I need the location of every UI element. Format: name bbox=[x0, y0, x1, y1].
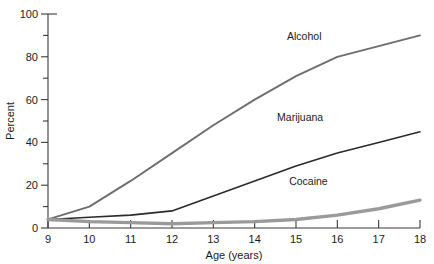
chart-background bbox=[0, 0, 434, 264]
chart-container: 020406080100 9101112131415161718 Alcohol… bbox=[0, 0, 434, 264]
x-tick-label: 10 bbox=[83, 233, 95, 245]
series-label-cocaine: Cocaine bbox=[289, 175, 328, 187]
series-label-marijuana: Marijuana bbox=[277, 111, 323, 123]
y-tick-label: 60 bbox=[26, 94, 38, 106]
series-label-alcohol: Alcohol bbox=[287, 30, 321, 42]
y-tick-label: 40 bbox=[26, 136, 38, 148]
x-tick-label: 15 bbox=[290, 233, 302, 245]
line-chart: 020406080100 9101112131415161718 Alcohol… bbox=[0, 0, 434, 264]
x-tick-label: 14 bbox=[249, 233, 261, 245]
y-tick-label: 100 bbox=[20, 8, 38, 20]
y-axis-title: Percent bbox=[4, 102, 16, 140]
x-tick-label: 16 bbox=[331, 233, 343, 245]
x-axis-title: Age (years) bbox=[206, 249, 263, 261]
x-tick-label: 9 bbox=[45, 233, 51, 245]
x-tick-label: 11 bbox=[125, 233, 136, 245]
x-tick-label: 13 bbox=[207, 233, 219, 245]
x-tick-label: 17 bbox=[373, 233, 385, 245]
x-tick-label: 18 bbox=[414, 233, 426, 245]
y-tick-label: 80 bbox=[26, 51, 38, 63]
y-tick-label: 20 bbox=[26, 179, 38, 191]
y-tick-label: 0 bbox=[32, 222, 38, 234]
x-tick-label: 12 bbox=[166, 233, 178, 245]
